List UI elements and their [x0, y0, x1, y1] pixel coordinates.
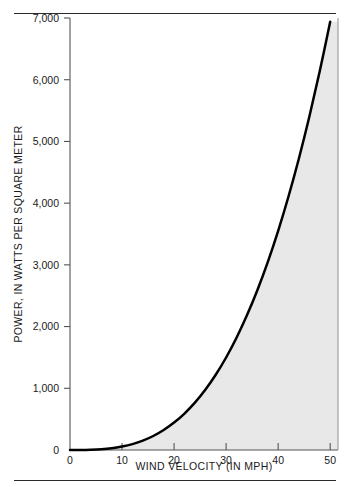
- y-tick-label: 6,000: [33, 74, 59, 86]
- wind-power-figure: 01,0002,0003,0004,0005,0006,0007,000 010…: [0, 0, 350, 487]
- wind-power-chart: 01,0002,0003,0004,0005,0006,0007,000 010…: [0, 0, 350, 487]
- x-axis-title: WIND VELOCITY (IN MPH): [135, 460, 272, 472]
- x-tick-label: 10: [116, 454, 128, 466]
- y-tick-label: 3,000: [33, 259, 59, 271]
- area-fill: [70, 22, 338, 450]
- y-tick-label: 4,000: [33, 197, 59, 209]
- x-tick-label: 0: [67, 454, 73, 466]
- y-tick-label: 1,000: [33, 382, 59, 394]
- y-tick-label: 0: [53, 444, 59, 456]
- x-tick-label: 50: [324, 454, 336, 466]
- x-tick-label: 40: [272, 454, 284, 466]
- y-tick-label: 2,000: [33, 320, 59, 332]
- y-tick-label: 7,000: [33, 12, 59, 24]
- y-axis-ticks: 01,0002,0003,0004,0005,0006,0007,000: [33, 12, 70, 456]
- y-axis-title: POWER, IN WATTS PER SQUARE METER: [12, 125, 24, 342]
- y-tick-label: 5,000: [33, 135, 59, 147]
